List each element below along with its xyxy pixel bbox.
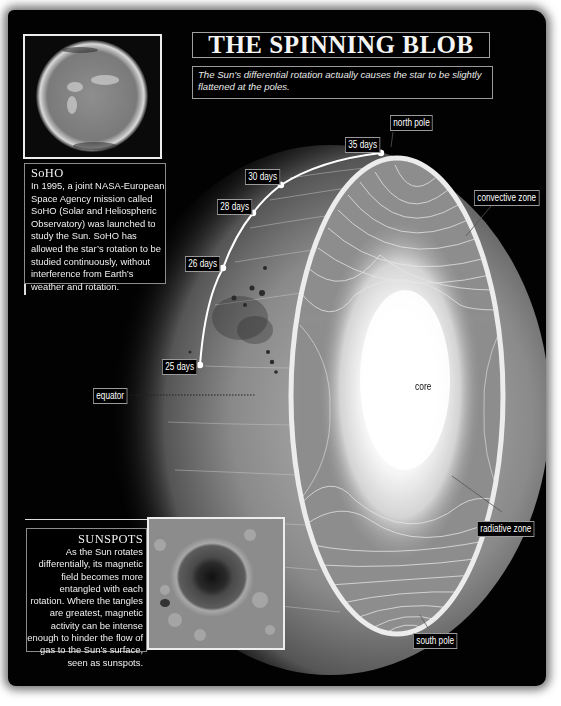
core-label: core	[415, 381, 432, 392]
period-label-25: 25 days	[162, 359, 197, 375]
soho-body: In 1995, a joint NASA-European Space Age…	[31, 180, 165, 293]
period-label-35: 35 days	[345, 137, 380, 153]
sunspots-caption-box: SUNSPOTS As the Sun rotates differential…	[26, 528, 147, 652]
radiative-zone-label: radiative zone	[477, 521, 535, 537]
period-label-28: 28 days	[217, 199, 252, 215]
sunspots-heading: SUNSPOTS	[27, 532, 143, 546]
soho-caption-box: SoHO In 1995, a joint NASA-European Spac…	[24, 163, 166, 284]
page-title: THE SPINNING BLOB	[192, 32, 490, 58]
sunspot-image-frame	[147, 517, 285, 650]
diagram-stage: THE SPINNING BLOB The Sun’s differential…	[0, 0, 561, 706]
sunspots-top-rule	[25, 519, 147, 520]
period-label-30: 30 days	[245, 169, 280, 185]
soho-heading: SoHO	[31, 166, 165, 180]
soho-image-frame	[23, 34, 162, 159]
north-pole-label: north pole	[390, 115, 433, 131]
convective-zone-label: convective zone	[474, 190, 539, 206]
equator-label: equator	[93, 388, 127, 404]
sunspots-body: As the Sun rotates differentially, its m…	[27, 546, 143, 669]
period-label-26: 26 days	[185, 256, 220, 272]
south-pole-label: south pole	[413, 633, 457, 649]
page-subtitle: The Sun’s differential rotation actually…	[192, 66, 493, 99]
